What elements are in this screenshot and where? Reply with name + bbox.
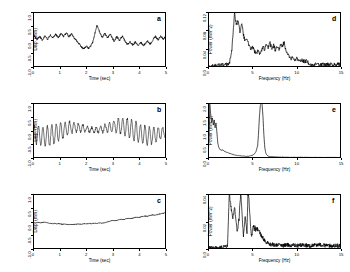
xtick-label: 1 bbox=[52, 162, 68, 166]
xtick-mark bbox=[252, 67, 253, 69]
x-axis-title: Frequency (Hz) bbox=[208, 168, 341, 173]
panel-letter-e: e bbox=[332, 106, 336, 113]
xtick-mark bbox=[208, 158, 209, 160]
xtick-mark bbox=[341, 158, 342, 160]
ytick-label: 0.5 bbox=[28, 116, 32, 130]
x-axis-title: Time (sec) bbox=[33, 77, 166, 82]
xtick-label: 2 bbox=[78, 71, 94, 75]
xtick-mark bbox=[297, 158, 298, 160]
ytick-label: 0.0 bbox=[203, 157, 207, 171]
y-axis-title: Disp. (mm) bbox=[34, 102, 39, 157]
ytick-label: -0.5 bbox=[28, 143, 32, 157]
ytick-label: 1.0 bbox=[203, 130, 207, 144]
xtick-label: 4 bbox=[131, 162, 147, 166]
xtick-label: 5 bbox=[158, 162, 174, 166]
xtick-label: 4 bbox=[131, 71, 147, 75]
xtick-mark bbox=[113, 67, 114, 69]
ytick-label: 2.0 bbox=[203, 102, 207, 116]
ytick-label: 0.04 bbox=[203, 48, 207, 62]
y-axis-title: Disp. (mm) bbox=[34, 11, 39, 66]
xtick-label: 10 bbox=[289, 71, 305, 75]
xtick-label: 1 bbox=[52, 71, 68, 75]
xtick-mark bbox=[297, 249, 298, 251]
panel-letter-d: d bbox=[332, 15, 336, 22]
xtick-mark bbox=[86, 249, 87, 251]
xtick-label: 15 bbox=[333, 71, 349, 75]
xtick-label: 2 bbox=[78, 253, 94, 257]
xtick-mark bbox=[252, 158, 253, 160]
data-line-a bbox=[33, 12, 166, 67]
xtick-label: 5 bbox=[244, 71, 260, 75]
x-axis-title: Frequency (Hz) bbox=[208, 259, 341, 264]
data-line-b bbox=[33, 103, 166, 158]
xtick-mark bbox=[113, 158, 114, 160]
ytick-label: 0.04 bbox=[203, 193, 207, 207]
data-line-e bbox=[208, 103, 341, 158]
ytick-label: 0.0 bbox=[203, 248, 207, 262]
xtick-mark bbox=[33, 249, 34, 251]
figure-panel-grid: 012345-1.0-0.50.00.51.0Time (sec)Disp. (… bbox=[0, 0, 350, 272]
xtick-mark bbox=[60, 158, 61, 160]
xtick-mark bbox=[208, 67, 209, 69]
panel-letter-f: f bbox=[332, 197, 334, 204]
ytick-label: -1.0 bbox=[28, 66, 32, 80]
xtick-label: 3 bbox=[105, 162, 121, 166]
ytick-label: 0.0 bbox=[28, 130, 32, 144]
xtick-mark bbox=[166, 158, 167, 160]
ytick-label: 0.5 bbox=[28, 207, 32, 221]
x-axis-title: Time (sec) bbox=[33, 168, 166, 173]
xtick-mark bbox=[166, 249, 167, 251]
y-axis-title: Disp. (mm) bbox=[34, 193, 39, 248]
xtick-label: 1 bbox=[52, 253, 68, 257]
data-line-c bbox=[33, 194, 166, 249]
xtick-label: 5 bbox=[158, 253, 174, 257]
xtick-label: 10 bbox=[289, 162, 305, 166]
ytick-label: -1.0 bbox=[28, 248, 32, 262]
xtick-label: 5 bbox=[244, 253, 260, 257]
xtick-mark bbox=[252, 249, 253, 251]
xtick-mark bbox=[86, 67, 87, 69]
ytick-label: -1.0 bbox=[28, 157, 32, 171]
ytick-label: 0.0 bbox=[28, 221, 32, 235]
xtick-label: 5 bbox=[244, 162, 260, 166]
xtick-mark bbox=[60, 67, 61, 69]
xtick-label: 4 bbox=[131, 253, 147, 257]
xtick-mark bbox=[208, 249, 209, 251]
x-axis-title: Frequency (Hz) bbox=[208, 77, 341, 82]
xtick-mark bbox=[139, 158, 140, 160]
xtick-mark bbox=[33, 158, 34, 160]
xtick-mark bbox=[86, 158, 87, 160]
xtick-mark bbox=[33, 67, 34, 69]
ytick-label: 1.0 bbox=[28, 193, 32, 207]
xtick-mark bbox=[341, 249, 342, 251]
ytick-label: 0.0 bbox=[203, 66, 207, 80]
ytick-label: 0.5 bbox=[203, 143, 207, 157]
xtick-mark bbox=[341, 67, 342, 69]
ytick-label: 0.02 bbox=[203, 221, 207, 235]
ytick-label: -0.5 bbox=[28, 52, 32, 66]
y-axis-title: Power (mm^2) bbox=[209, 11, 214, 66]
x-axis-title: Time (sec) bbox=[33, 259, 166, 264]
xtick-label: 10 bbox=[289, 253, 305, 257]
panel-letter-c: c bbox=[157, 197, 161, 204]
ytick-label: 1.5 bbox=[203, 116, 207, 130]
ytick-label: -0.5 bbox=[28, 234, 32, 248]
ytick-label: 0.12 bbox=[203, 11, 207, 25]
xtick-label: 15 bbox=[333, 162, 349, 166]
ytick-label: 1.0 bbox=[28, 11, 32, 25]
xtick-mark bbox=[60, 249, 61, 251]
ytick-label: 0.5 bbox=[28, 25, 32, 39]
ytick-label: 0.0 bbox=[28, 39, 32, 53]
xtick-mark bbox=[139, 249, 140, 251]
y-axis-title: Power (mm^2) bbox=[209, 102, 214, 157]
xtick-label: 5 bbox=[158, 71, 174, 75]
xtick-label: 3 bbox=[105, 71, 121, 75]
y-axis-title: Power (mm^2) bbox=[209, 193, 214, 248]
data-line-f bbox=[208, 194, 341, 249]
panel-letter-a: a bbox=[157, 15, 161, 22]
xtick-label: 15 bbox=[333, 253, 349, 257]
xtick-mark bbox=[139, 67, 140, 69]
xtick-label: 2 bbox=[78, 162, 94, 166]
panel-letter-b: b bbox=[157, 106, 161, 113]
xtick-mark bbox=[297, 67, 298, 69]
